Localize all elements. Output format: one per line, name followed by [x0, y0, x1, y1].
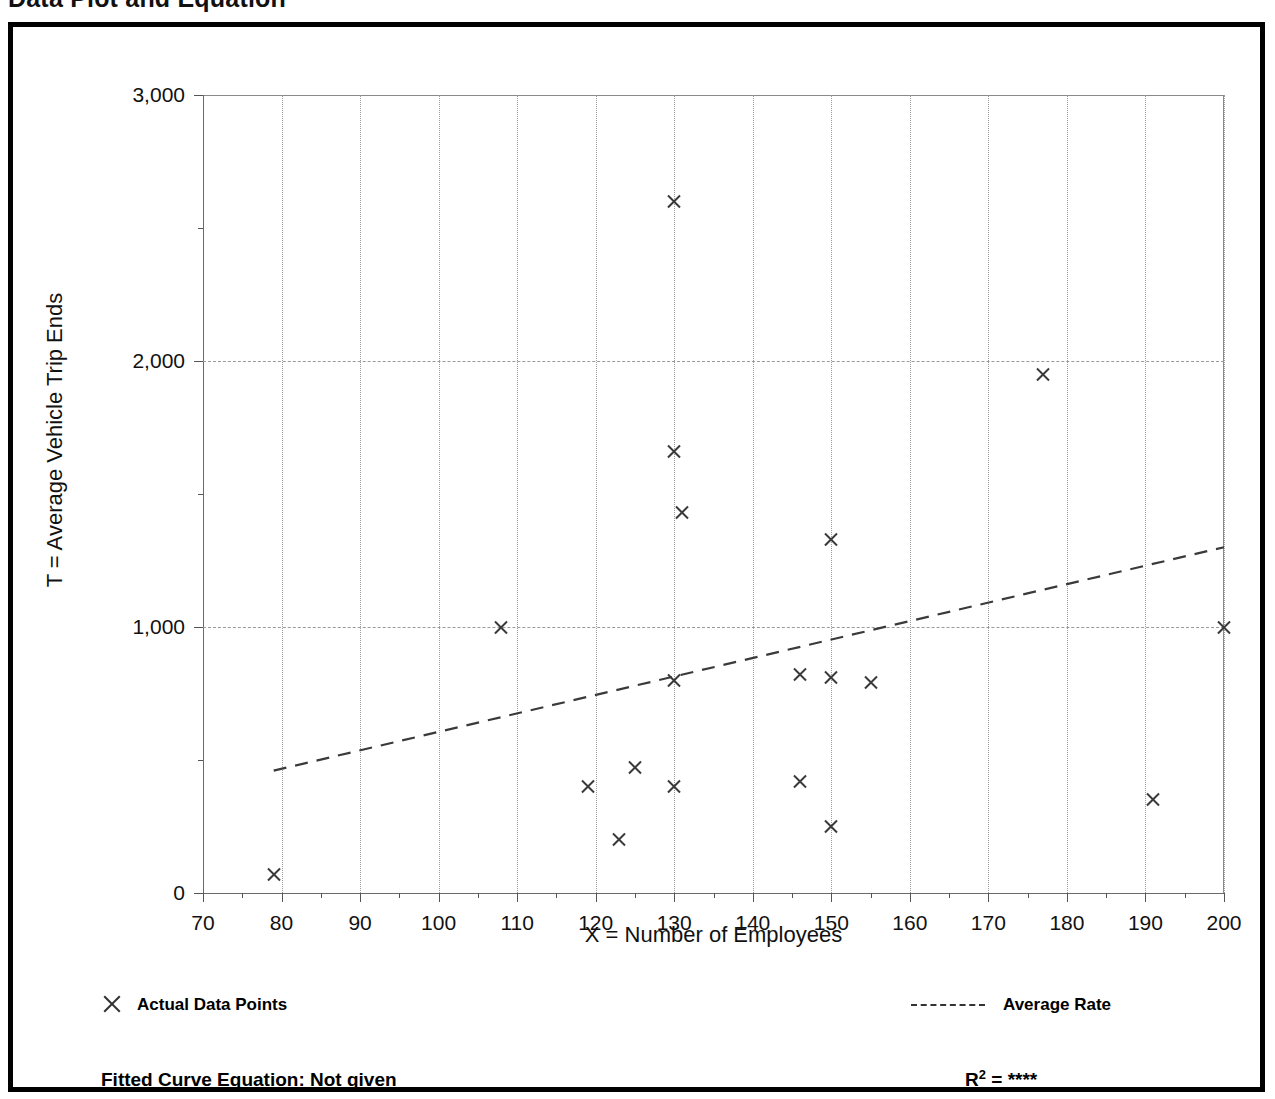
r-squared-value: R2 = ****: [965, 1067, 1037, 1091]
x-minor-tick: [1185, 893, 1186, 898]
x-marker-icon: [101, 993, 123, 1015]
x-minor-tick: [949, 893, 950, 898]
x-gridline: [1224, 95, 1225, 893]
plot-area: 7080901001101201301401501601701801902000…: [203, 95, 1224, 893]
fitted-curve-equation: Fitted Curve Equation: Not given: [101, 1069, 397, 1091]
data-point: [666, 672, 683, 689]
x-minor-tick: [1028, 893, 1029, 898]
data-point: [1035, 366, 1052, 383]
y-tick-label: 1,000: [132, 615, 185, 639]
r2-prefix: R: [965, 1069, 979, 1090]
x-tick: [360, 893, 361, 902]
x-minor-tick: [714, 893, 715, 898]
y-tick-label: 3,000: [132, 83, 185, 107]
x-tick: [1145, 893, 1146, 902]
x-minor-tick: [792, 893, 793, 898]
data-point: [674, 504, 691, 521]
chart-frame: 7080901001101201301401501601701801902000…: [8, 22, 1265, 1092]
x-tick: [282, 893, 283, 902]
y-tick-label: 2,000: [132, 349, 185, 373]
average-rate-line: [203, 95, 1224, 893]
data-point: [666, 443, 683, 460]
y-tick: [194, 627, 203, 628]
data-point: [791, 773, 808, 790]
data-point: [791, 666, 808, 683]
y-tick: [194, 893, 203, 894]
data-point: [1216, 619, 1233, 636]
x-tick: [910, 893, 911, 902]
x-tick: [1224, 893, 1225, 902]
x-tick: [831, 893, 832, 902]
r2-exponent: 2: [979, 1067, 986, 1082]
data-point: [579, 778, 596, 795]
page-title: Data Plot and Equation: [8, 0, 286, 13]
dashed-line-icon: [911, 1004, 985, 1006]
x-minor-tick: [399, 893, 400, 898]
x-tick: [1067, 893, 1068, 902]
data-point: [265, 866, 282, 883]
data-point: [862, 674, 879, 691]
x-tick: [203, 893, 204, 902]
data-point: [1145, 791, 1162, 808]
data-point: [666, 778, 683, 795]
y-tick: [194, 361, 203, 362]
data-point: [493, 619, 510, 636]
x-minor-tick: [1106, 893, 1107, 898]
chart-page: Data Plot and Equation 70809010011012013…: [0, 0, 1275, 1099]
x-tick: [988, 893, 989, 902]
x-axis-title: X = Number of Employees: [203, 922, 1224, 948]
x-tick: [517, 893, 518, 902]
y-tick-label: 0: [173, 881, 185, 905]
x-minor-tick: [871, 893, 872, 898]
legend-rate-label: Average Rate: [1003, 995, 1111, 1015]
data-point: [823, 531, 840, 548]
x-tick: [439, 893, 440, 902]
x-minor-tick: [321, 893, 322, 898]
data-point: [666, 193, 683, 210]
x-tick: [753, 893, 754, 902]
x-minor-tick: [242, 893, 243, 898]
x-minor-tick: [635, 893, 636, 898]
r2-equals: =: [986, 1069, 1008, 1090]
x-tick: [596, 893, 597, 902]
y-tick: [194, 95, 203, 96]
y-axis-title: T = Average Vehicle Trip Ends: [42, 210, 68, 670]
data-point: [823, 818, 840, 835]
x-tick: [674, 893, 675, 902]
x-minor-tick: [478, 893, 479, 898]
data-point: [626, 759, 643, 776]
r2-stars: ****: [1008, 1069, 1038, 1090]
data-point: [611, 831, 628, 848]
data-point: [823, 669, 840, 686]
legend-points-label: Actual Data Points: [137, 995, 287, 1015]
x-minor-tick: [556, 893, 557, 898]
